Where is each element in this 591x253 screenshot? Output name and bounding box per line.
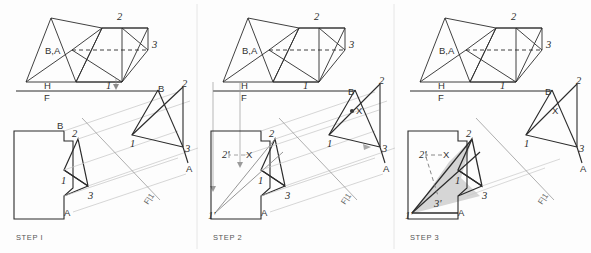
front-label-1-3: 1 [455, 175, 460, 186]
aux-label-x-2: X [356, 105, 363, 116]
front-label-3-1: 3 [87, 190, 93, 201]
front-label-2prime-2: 2' [222, 149, 230, 160]
pictorial-label-3-2: 3 [348, 39, 354, 50]
front-label-x-3: X [443, 149, 450, 160]
ref-label-f-1: F [44, 92, 50, 103]
front-label-1-2: 1 [258, 175, 263, 186]
pictorial-view-1 [16, 18, 158, 91]
front-label-3prime-3: 3' [433, 198, 442, 209]
front-label-a-1: A [64, 207, 71, 218]
panel-step3: B,A 2 3 1 H F 2' X 2 [405, 11, 587, 242]
pictorial-label-2-2: 2 [314, 11, 320, 22]
aux-label-1-2: 1 [327, 138, 332, 149]
aux-view-2 [329, 84, 385, 163]
front-label-3-3: 3 [481, 190, 487, 201]
front-label-3-2: 3 [284, 190, 290, 201]
pictorial-label-1-3: 1 [500, 80, 505, 91]
pictorial-label-1-2: 1 [303, 80, 308, 91]
pictorial-label-3-3: 3 [545, 39, 551, 50]
ref-label-h-3: H [438, 80, 445, 91]
front-view-1 [14, 92, 198, 219]
panel-step2: B,A 2 3 1 H F [208, 11, 395, 242]
aux-view-3 [526, 84, 582, 163]
front-label-2-3: 2 [466, 128, 472, 139]
aux-label-1-3: 1 [524, 138, 529, 149]
aux-label-3-2: 3 [381, 143, 387, 154]
front-label-1-1: 1 [61, 175, 66, 186]
front-label-a-3: A [458, 207, 465, 218]
drawing-sheet: B,A 2 3 1 H F B 2 1 3 [0, 0, 591, 253]
pictorial-view-3 [410, 18, 552, 91]
step-label-3: STEP 3 [410, 233, 439, 242]
pictorial-label-3-1: 3 [151, 39, 157, 50]
fold-line-1 [82, 118, 160, 200]
front-label-a-2: A [261, 207, 268, 218]
front-view-2 [211, 92, 395, 219]
aux-label-2-3: 2 [576, 75, 582, 86]
pictorial-label-ba-1: B,A [45, 45, 61, 56]
step-label-1: STEP I [16, 233, 43, 242]
pictorial-label-ba-2: B,A [242, 45, 258, 56]
aux-label-a-2: A [383, 163, 390, 174]
aux-label-x-3: X [552, 105, 559, 116]
aux-label-1-1: 1 [130, 138, 135, 149]
front-label-b-1: B [57, 120, 63, 131]
aux-label-3-1: 3 [184, 143, 190, 154]
engineering-drawing-svg: B,A 2 3 1 H F B 2 1 3 [0, 0, 591, 253]
pictorial-label-2-1: 2 [117, 11, 123, 22]
aux-label-a-1: A [186, 163, 193, 174]
front-label-2prime-3: 2' [419, 149, 427, 160]
front-label-1prime-2: 1' [208, 210, 216, 221]
aux-label-2-2: 2 [379, 75, 385, 86]
pictorial-label-1-1: 1 [106, 80, 111, 91]
front-label-1prime-3: 1' [405, 210, 413, 221]
pictorial-label-2-3: 2 [511, 11, 517, 22]
fold-line-3 [476, 118, 554, 200]
front-label-2-1: 2 [72, 128, 78, 139]
aux-label-a-3: A [580, 163, 587, 174]
ref-label-f-3: F [438, 92, 444, 103]
panel-step1: B,A 2 3 1 H F B 2 1 3 [14, 11, 198, 242]
aux-label-3-3: 3 [578, 143, 584, 154]
front-label-2-2: 2 [269, 128, 275, 139]
aux-label-b-1: B [158, 83, 164, 94]
pictorial-label-ba-3: B,A [439, 45, 455, 56]
pictorial-view-2 [210, 18, 355, 192]
ref-label-f-2: F [241, 92, 247, 103]
aux-point-x-2 [350, 109, 354, 113]
front-label-x-2: X [246, 149, 253, 160]
aux-label-b-2: B [348, 86, 354, 97]
aux-label-2-1: 2 [182, 78, 188, 89]
ref-label-h-1: H [44, 80, 51, 91]
step-label-2: STEP 2 [213, 233, 242, 242]
ref-label-h-2: H [241, 80, 248, 91]
aux-label-b-3: B [545, 86, 551, 97]
front-view-3 [408, 118, 560, 219]
